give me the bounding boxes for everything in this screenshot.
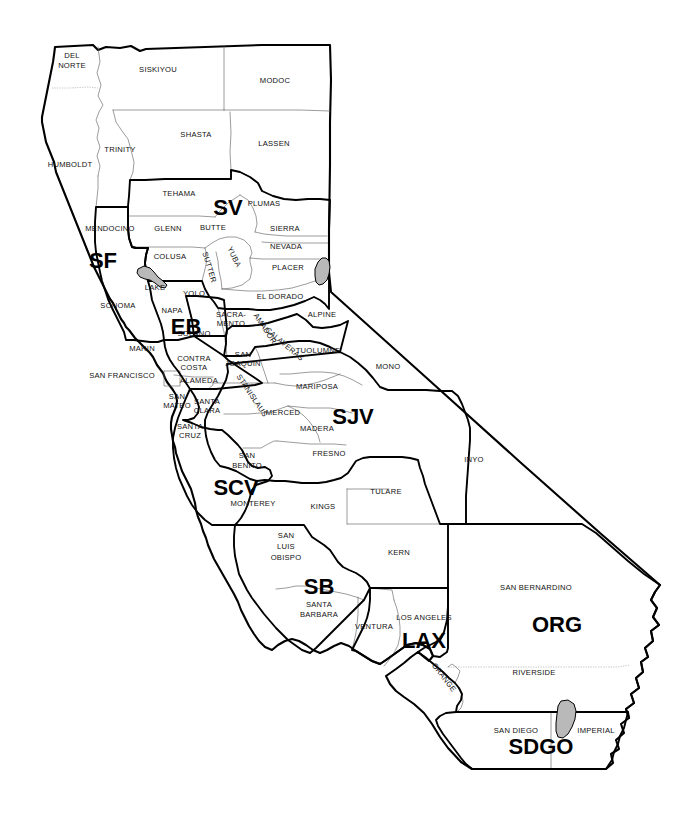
county-label: MODOC xyxy=(260,76,291,85)
county-label: PLUMAS xyxy=(248,199,281,208)
county-label: SAN xyxy=(239,451,255,460)
county-label: SAN xyxy=(278,531,294,540)
county-label: LUIS xyxy=(277,542,295,551)
county-label: MADERA xyxy=(300,424,335,433)
county-label: BARBARA xyxy=(300,610,339,619)
county-label: SAN xyxy=(169,392,185,401)
county-label: CLARA xyxy=(194,406,221,415)
county-label: GLENN xyxy=(154,224,181,233)
county-label: CONTRA xyxy=(177,354,211,363)
county-label: SAN FRANCISCO xyxy=(89,371,155,380)
county-label: MERCED xyxy=(266,408,301,417)
county-label: KERN xyxy=(388,548,410,557)
county-label: LAKE xyxy=(145,283,165,292)
county-label: SAN xyxy=(235,350,251,359)
county-label: SACRA- xyxy=(216,310,246,319)
county-label: MARIN xyxy=(129,344,155,353)
county-label: OBISPO xyxy=(271,553,302,562)
county-label: VENTURA xyxy=(355,622,394,631)
county-label: DEL xyxy=(64,51,80,60)
region-label-org: ORG xyxy=(532,612,582,637)
region-label-eb: EB xyxy=(171,314,202,339)
county-label: BENITO xyxy=(232,461,262,470)
county-label: COSTA xyxy=(181,363,209,372)
county-label: RIVERSIDE xyxy=(512,668,555,677)
county-label: LASSEN xyxy=(258,139,289,148)
region-label-scv: SCV xyxy=(213,475,259,500)
county-label: SIERRA xyxy=(270,224,300,233)
county-label: KINGS xyxy=(311,502,336,511)
county-label: MENTO xyxy=(217,319,246,328)
county-label: SANTA xyxy=(177,422,204,431)
county-label: TULARE xyxy=(370,487,401,496)
county-label: MONO xyxy=(376,362,401,371)
county-label: LOS ANGELES xyxy=(396,613,452,622)
county-label: MENDOCINO xyxy=(85,224,135,233)
county-label: FRESNO xyxy=(312,449,345,458)
county-label: NORTE xyxy=(58,61,86,70)
county-label: ALPINE xyxy=(308,310,337,319)
map-svg: DELNORTESISKIYOUMODOCSHASTALASSENTRINITY… xyxy=(0,0,694,821)
region-label-sb: SB xyxy=(304,574,335,599)
county-label: IMPERIAL xyxy=(577,726,614,735)
county-label: MATEO xyxy=(163,401,191,410)
region-label-sv: SV xyxy=(213,195,243,220)
county-label: ALAMEDA xyxy=(180,376,219,385)
region-label-sdgo: SDGO xyxy=(509,734,574,759)
county-label: EL DORADO xyxy=(257,292,304,301)
county-label: HUMBOLDT xyxy=(48,160,93,169)
region-label-sf: SF xyxy=(89,248,117,273)
county-label: TEHAMA xyxy=(162,189,196,198)
county-label: CRUZ xyxy=(179,431,201,440)
county-label: TUOLUMNE xyxy=(296,346,341,355)
county-label: JOAQUIN xyxy=(225,359,261,368)
county-label: MONTEREY xyxy=(230,499,275,508)
county-label: INYO xyxy=(464,455,484,464)
county-label: SONOMA xyxy=(100,301,136,310)
california-county-map: DELNORTESISKIYOUMODOCSHASTALASSENTRINITY… xyxy=(0,0,694,821)
county-label: SANTA xyxy=(306,600,333,609)
county-label: BUTTE xyxy=(200,223,226,232)
county-label: TRINITY xyxy=(104,145,135,154)
region-label-lax: LAX xyxy=(402,628,446,653)
county-label: NEVADA xyxy=(270,242,303,251)
region-label-sjv: SJV xyxy=(332,404,374,429)
county-label: SISKIYOU xyxy=(139,65,177,74)
county-label: SHASTA xyxy=(180,130,212,139)
county-label: SANTA xyxy=(194,397,221,406)
county-label: MARIPOSA xyxy=(296,382,339,391)
county-label: COLUSA xyxy=(154,252,187,261)
county-label: PLACER xyxy=(272,263,304,272)
county-label: YOLO xyxy=(183,289,205,298)
county-label: SAN BERNARDINO xyxy=(500,583,572,592)
